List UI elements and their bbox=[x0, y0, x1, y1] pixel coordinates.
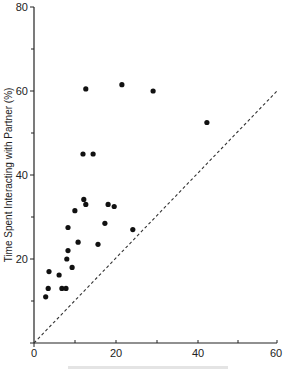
y-tick-label-60: 60 bbox=[16, 85, 28, 97]
x-tick-label-60: 60 bbox=[270, 347, 282, 359]
y-axis-title: Time Spent Interacting with Partner (%) bbox=[3, 88, 14, 263]
data-point bbox=[72, 208, 77, 213]
data-point bbox=[119, 82, 124, 87]
data-point bbox=[83, 86, 88, 91]
data-point bbox=[65, 248, 70, 253]
data-point bbox=[95, 242, 100, 247]
data-point bbox=[70, 265, 75, 270]
y-tick-label-20: 20 bbox=[16, 253, 28, 265]
data-point bbox=[81, 197, 86, 202]
x-tick-label-20: 20 bbox=[110, 347, 122, 359]
data-point bbox=[80, 151, 85, 156]
data-point bbox=[63, 286, 68, 291]
data-point bbox=[83, 202, 88, 207]
data-point bbox=[57, 272, 62, 277]
data-point bbox=[64, 256, 69, 261]
data-point bbox=[65, 225, 70, 230]
data-point bbox=[76, 240, 81, 245]
y-tick-label-80: 80 bbox=[16, 1, 28, 13]
scatter-chart: 80 60 40 20 0 20 40 60 Time Spent Intera… bbox=[0, 0, 291, 369]
data-points bbox=[43, 82, 209, 299]
data-point bbox=[102, 221, 107, 226]
data-point bbox=[106, 202, 111, 207]
identity-reference-line bbox=[34, 91, 277, 343]
data-point bbox=[204, 120, 209, 125]
data-point bbox=[43, 294, 48, 299]
data-point bbox=[46, 269, 51, 274]
data-point bbox=[46, 286, 51, 291]
data-point bbox=[112, 204, 117, 209]
x-tick-label-0: 0 bbox=[31, 347, 37, 359]
data-point bbox=[130, 227, 135, 232]
y-tick-label-40: 40 bbox=[16, 169, 28, 181]
data-point bbox=[91, 151, 96, 156]
x-tick-label-40: 40 bbox=[192, 347, 204, 359]
data-point bbox=[151, 88, 156, 93]
